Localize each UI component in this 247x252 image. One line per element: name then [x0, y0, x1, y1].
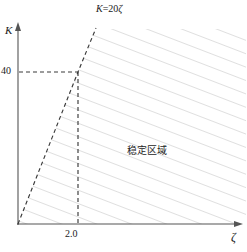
y-axis [15, 22, 21, 225]
y-axis-tick-40: 40 [1, 65, 11, 76]
x-axis-tick-2-0: 2.0 [65, 228, 78, 239]
line-equation-equals: =20 [103, 3, 119, 14]
stable-region-label: 稳定区域 [127, 142, 167, 157]
stable-region-hatch [0, 0, 247, 252]
y-axis-label: K [5, 24, 12, 36]
x-axis-label: ζ [231, 230, 236, 245]
plot-area [0, 0, 247, 252]
line-equation-prefix: K [96, 3, 103, 14]
stability-region-chart: K ζ 40 2.0 K=20ζ 稳定区域 [0, 0, 247, 252]
line-equation-suffix: ζ [118, 3, 122, 14]
line-equation-label: K=20ζ [96, 3, 122, 14]
